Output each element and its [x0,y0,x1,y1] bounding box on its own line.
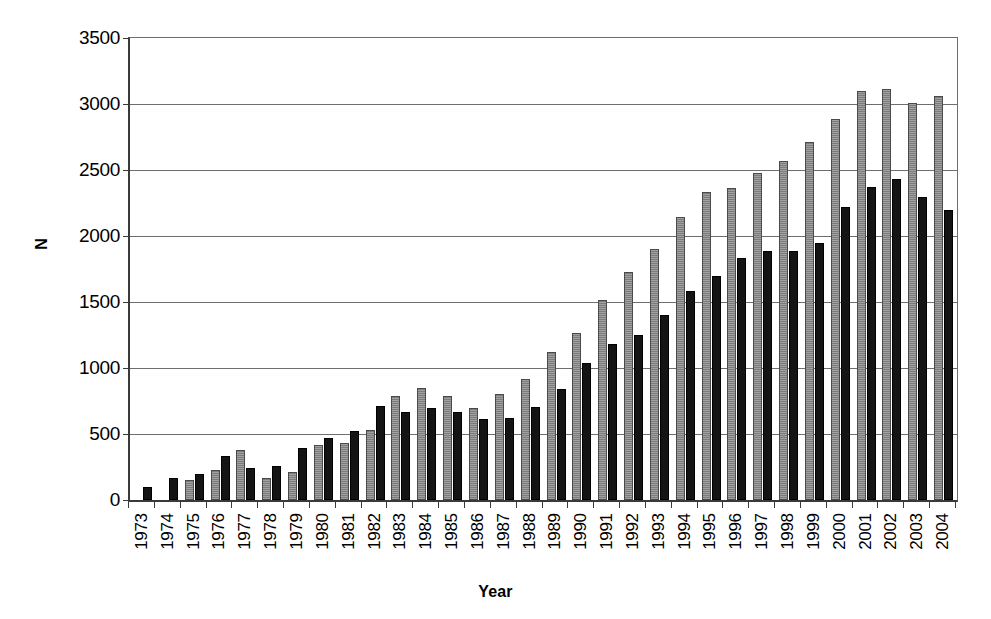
bar-gray [882,89,891,500]
x-axis-tick-mark [774,501,775,508]
x-axis-tick-label: 1994 [675,514,692,574]
bar-black [324,438,333,500]
bar-black [867,187,876,500]
bar-chart: N 3500300025002000150010005000 197319741… [0,0,991,619]
x-axis-tick-label: 1999 [804,514,821,574]
bar-group [259,38,285,500]
bar-group [363,38,389,500]
x-axis-tick-mark [800,501,801,508]
bar-group [337,38,363,500]
y-axis-tick-labels: 3500300025002000150010005000 [48,0,120,619]
bar-group [285,38,311,500]
bar-black [557,389,566,500]
bar-gray [469,408,478,500]
bar-gray [572,333,581,500]
x-axis-title: Year [0,583,991,601]
bar-gray [417,388,426,500]
y-axis-tick-label: 3000 [56,94,120,113]
x-axis-tick-label: 1988 [520,514,537,574]
x-axis-tick-mark [722,501,723,508]
bar-gray [236,450,245,500]
x-axis-tick-label: 1996 [727,514,744,574]
x-axis-tick-mark [490,501,491,508]
y-axis-tick-mark [123,170,130,171]
x-axis-tick-mark [180,501,181,508]
bar-group [311,38,337,500]
bar-group [802,38,828,500]
x-axis-tick-mark [826,501,827,508]
x-axis-tick-mark [852,501,853,508]
x-axis-tick-mark [671,501,672,508]
bar-gray [185,480,194,500]
bar-black [479,419,488,500]
bar-black [944,210,953,500]
x-axis-tick-label: 1987 [494,514,511,574]
x-axis-tick-label: 1986 [468,514,485,574]
x-axis-tick-label: 1984 [417,514,434,574]
bar-black [531,407,540,500]
bar-group [544,38,570,500]
x-axis-tick-mark [154,501,155,508]
bar-group [440,38,466,500]
x-axis-tick-label: 2004 [934,514,951,574]
x-axis-tick-label: 1990 [572,514,589,574]
bar-gray [727,188,736,500]
y-axis-tick-label: 3500 [56,28,120,47]
bar-group [492,38,518,500]
bar-group [621,38,647,500]
bar-gray [211,470,220,500]
x-axis-tick-label: 1981 [339,514,356,574]
bar-gray [443,396,452,500]
bar-black [634,335,643,500]
bar-gray [495,394,504,500]
y-axis-tick-label: 1000 [56,358,120,377]
bar-group [647,38,673,500]
bar-group [414,38,440,500]
x-axis-tick-label: 2001 [856,514,873,574]
bar-group [879,38,905,500]
x-axis-tick-mark [361,501,362,508]
x-axis-tick-mark [748,501,749,508]
x-axis-tick-marks [128,501,955,509]
bar-black [221,456,230,500]
bar-black [195,474,204,500]
x-axis-tick-label: 1985 [443,514,460,574]
bar-group [466,38,492,500]
x-axis-tick-mark [283,501,284,508]
x-axis-tick-label: 1974 [158,514,175,574]
x-axis-tick-mark [231,501,232,508]
bar-gray [779,161,788,500]
y-axis-tick-label: 2500 [56,160,120,179]
x-axis-tick-mark [128,501,129,508]
x-axis-tick-label: 2003 [908,514,925,574]
y-axis-tick-label: 0 [56,490,120,509]
bar-gray [753,173,762,500]
bar-gray [391,396,400,500]
bar-gray [366,430,375,500]
x-axis-tick-mark [206,501,207,508]
bar-black [169,478,178,500]
bar-group [388,38,414,500]
bar-black [246,468,255,500]
y-axis-tick-mark [123,434,130,435]
x-axis-tick-mark [929,501,930,508]
x-axis-tick-label: 1993 [649,514,666,574]
bar-group [776,38,802,500]
x-axis-tick-label: 1979 [287,514,304,574]
bar-group [156,38,182,500]
bar-black [453,412,462,500]
bar-black [918,197,927,500]
bar-group [828,38,854,500]
x-axis-tick-label: 1980 [313,514,330,574]
bar-gray [340,443,349,500]
bar-group [699,38,725,500]
bar-gray [702,192,711,500]
bar-group [750,38,776,500]
x-axis-tick-mark [516,501,517,508]
x-axis-tick-label: 1976 [210,514,227,574]
x-axis-tick-label: 1975 [184,514,201,574]
plot-area [128,37,958,502]
x-axis-tick-labels: 1973197419751976197719781979198019811982… [128,509,955,573]
bar-gray [934,96,943,500]
y-axis-tick-mark [123,236,130,237]
